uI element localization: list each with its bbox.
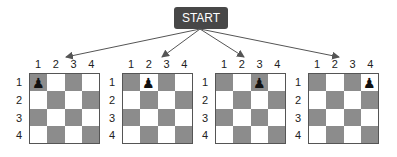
board-square: [344, 109, 361, 126]
row-label: 4: [106, 129, 118, 141]
board-square: [233, 126, 250, 143]
board-square: [251, 109, 268, 126]
board-grid: ♟: [122, 73, 193, 144]
board-square: [216, 126, 233, 143]
arrow-to-board-4: [200, 29, 339, 57]
row-label: 2: [199, 94, 211, 106]
board-square: [82, 126, 99, 143]
board-square: [326, 74, 343, 91]
board-grid: ♟: [29, 73, 100, 144]
column-label: 3: [344, 58, 362, 70]
pawn-icon: ♟: [363, 75, 376, 89]
board-square: [216, 74, 233, 91]
board-square: [268, 91, 285, 108]
board-square: ♟: [251, 74, 268, 91]
board-square: ♟: [140, 74, 157, 91]
board-square: [268, 74, 285, 91]
board-square: [344, 74, 361, 91]
board-square: [123, 91, 140, 108]
row-label: 1: [199, 76, 211, 88]
board-square: ♟: [30, 74, 47, 91]
column-label: 2: [233, 58, 251, 70]
board-square: [268, 126, 285, 143]
column-label: 2: [140, 58, 158, 70]
row-label: 2: [13, 94, 25, 106]
board-square: [233, 109, 250, 126]
row-label: 1: [13, 76, 25, 88]
board-square: [47, 74, 64, 91]
chess-board-4: 12341234♟: [308, 58, 397, 150]
board-square: [268, 109, 285, 126]
board-square: ♟: [361, 74, 378, 91]
column-labels: 1234: [308, 58, 380, 72]
board-square: [251, 126, 268, 143]
board-square: [158, 109, 175, 126]
board-square: [123, 126, 140, 143]
board-square: [158, 91, 175, 108]
column-label: 4: [175, 58, 193, 70]
board-square: [216, 91, 233, 108]
row-label: 4: [292, 129, 304, 141]
column-label: 3: [158, 58, 176, 70]
board-square: [65, 109, 82, 126]
row-label: 1: [292, 76, 304, 88]
board-square: [47, 109, 64, 126]
board-square: [123, 74, 140, 91]
board-square: [158, 126, 175, 143]
board-square: [123, 109, 140, 126]
board-square: [233, 91, 250, 108]
column-labels: 1234: [215, 58, 287, 72]
column-labels: 1234: [122, 58, 194, 72]
row-label: 3: [13, 112, 25, 124]
row-label: 2: [292, 94, 304, 106]
board-square: [140, 91, 157, 108]
board-square: [140, 126, 157, 143]
board-square: [309, 109, 326, 126]
board-square: [47, 126, 64, 143]
board-square: [175, 91, 192, 108]
arrow-to-board-1: [66, 29, 200, 57]
board-square: [344, 91, 361, 108]
column-label: 3: [251, 58, 269, 70]
row-label: 4: [199, 129, 211, 141]
board-square: [326, 126, 343, 143]
board-square: [175, 126, 192, 143]
board-square: [326, 109, 343, 126]
pawn-icon: ♟: [253, 75, 266, 89]
row-label: 2: [106, 94, 118, 106]
board-square: [65, 91, 82, 108]
board-grid: ♟: [308, 73, 379, 144]
column-label: 2: [47, 58, 65, 70]
board-square: [65, 126, 82, 143]
board-square: [361, 91, 378, 108]
board-square: [140, 109, 157, 126]
board-square: [47, 91, 64, 108]
row-label: 3: [292, 112, 304, 124]
column-label: 1: [29, 58, 47, 70]
row-label: 3: [106, 112, 118, 124]
board-square: [30, 126, 47, 143]
board-square: [175, 109, 192, 126]
column-label: 4: [361, 58, 379, 70]
board-square: [175, 74, 192, 91]
board-square: [216, 109, 233, 126]
board-square: [233, 74, 250, 91]
row-label: 4: [13, 129, 25, 141]
board-square: [344, 126, 361, 143]
row-label: 1: [106, 76, 118, 88]
board-square: [361, 109, 378, 126]
column-label: 1: [308, 58, 326, 70]
column-label: 2: [326, 58, 344, 70]
board-square: [30, 91, 47, 108]
column-label: 3: [65, 58, 83, 70]
board-square: [326, 91, 343, 108]
column-labels: 1234: [29, 58, 101, 72]
column-label: 1: [122, 58, 140, 70]
pawn-icon: ♟: [142, 75, 155, 89]
board-square: [30, 109, 47, 126]
board-square: [65, 74, 82, 91]
row-label: 3: [199, 112, 211, 124]
board-square: [309, 91, 326, 108]
board-square: [158, 74, 175, 91]
board-square: [82, 74, 99, 91]
